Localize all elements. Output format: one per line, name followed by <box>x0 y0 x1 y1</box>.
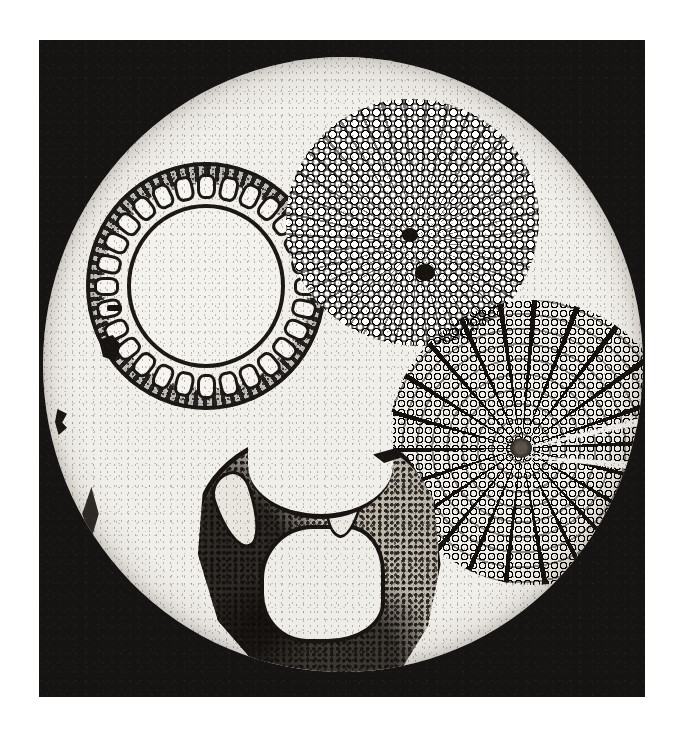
vascular-bundle <box>197 374 216 399</box>
vascular-bundle <box>94 277 119 296</box>
debris-flake-small <box>107 305 122 311</box>
micrograph-plate: printed black-and-white photomicrograph … <box>0 0 683 734</box>
specimen-petiole <box>193 432 443 672</box>
plate-caption: printed black-and-white photomicrograph … <box>0 0 1 1</box>
debris-fibre-left <box>43 205 59 325</box>
debris-fragment-lower-left <box>73 487 119 609</box>
petiole-inner-lumen <box>260 525 385 643</box>
vascular-bundle <box>197 174 216 199</box>
microscope-field-of-view <box>43 57 643 672</box>
petiole-adaxial-notch <box>248 412 393 519</box>
print-border <box>39 40 645 697</box>
stem-central-lumen <box>127 204 285 368</box>
debris-speck-left <box>55 409 67 435</box>
